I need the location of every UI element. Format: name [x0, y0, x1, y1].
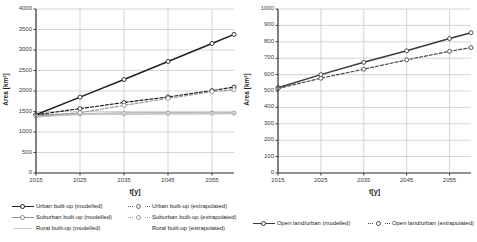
legend-item-label: Rural built-up (modelled): [36, 224, 101, 233]
y-tick-label: 500: [6, 149, 32, 155]
legend-item-label: Suburban built-up (modelled): [36, 213, 112, 222]
series-line: [36, 34, 234, 114]
series-marker: [469, 31, 473, 35]
y-tick-label: 2500: [6, 67, 32, 73]
figure-two-line-charts: Area [km²] t[y] Urban built-up (modelled…: [0, 0, 477, 242]
legend-item: Urban built-up (extrapolated): [128, 201, 237, 212]
series-marker: [405, 49, 409, 53]
legend-item-label: Urban built-up (modelled): [36, 202, 102, 211]
y-tick-label: 500: [248, 87, 274, 93]
y-tick-label: 800: [248, 38, 274, 44]
series-marker: [448, 37, 452, 41]
plot-area-right: [240, 0, 477, 195]
series-marker: [232, 32, 236, 36]
x-tick-label: 2055: [198, 177, 226, 183]
legend-key-solid-line-icon: [12, 213, 34, 222]
x-tick-label: 2015: [264, 177, 292, 183]
series-marker: [166, 96, 170, 100]
legend-key-dashed-line-icon: [128, 213, 150, 222]
x-tick-label: 2045: [154, 177, 182, 183]
x-axis-title-left: t[y]: [36, 187, 234, 196]
legend-item: Open land/urban (extrapolated): [368, 218, 474, 229]
legend-key-solid-line-icon: [253, 219, 275, 228]
legend-item: Rural built-up (extrapolated): [128, 223, 237, 234]
legend-item: Rural built-up (modelled): [12, 223, 112, 234]
y-tick-label: 900: [248, 21, 274, 27]
legend-key-solid-line-icon: [12, 224, 34, 233]
legend-key-blank-icon: [128, 224, 150, 233]
legend-key-solid-line-icon: [12, 202, 34, 211]
y-tick-label: 1000: [248, 5, 274, 11]
legend-item: Open land/urban (modelled): [253, 218, 350, 229]
series-marker: [405, 58, 409, 62]
series-marker: [78, 107, 82, 111]
y-tick-label: 1500: [6, 108, 32, 114]
legend-item-label: Suburban built-up (extrapolated): [152, 213, 237, 222]
series-marker: [210, 41, 214, 45]
legend-left-extrapolated: Urban built-up (extrapolated)Suburban bu…: [128, 201, 237, 234]
legend-item-label: Open land/urban (modelled): [277, 219, 350, 228]
series-marker: [78, 111, 82, 115]
chart-panel-right: Area [km²] t[y] Open land/urban (modelle…: [240, 0, 477, 242]
series-marker: [319, 76, 323, 80]
series-marker: [122, 78, 126, 82]
x-tick-label: 2035: [110, 177, 138, 183]
series-marker: [122, 103, 126, 107]
series-marker: [362, 60, 366, 64]
x-tick-label: 2025: [307, 177, 335, 183]
series-marker: [469, 46, 473, 50]
legend-left-modelled: Urban built-up (modelled)Suburban built-…: [12, 201, 112, 234]
legend-item-label: Urban built-up (extrapolated): [152, 202, 227, 211]
y-tick-label: 100: [248, 153, 274, 159]
series-line: [278, 48, 471, 89]
legend-right-modelled: Open land/urban (modelled): [253, 218, 350, 229]
y-tick-label: 2000: [6, 87, 32, 93]
x-tick-label: 2055: [436, 177, 464, 183]
y-tick-label: 300: [248, 120, 274, 126]
plot-area-left: [0, 0, 240, 195]
y-tick-label: 200: [248, 136, 274, 142]
x-tick-label: 2035: [350, 177, 378, 183]
legend-key-dashed-line-icon: [368, 219, 390, 228]
y-tick-label: 700: [248, 54, 274, 60]
x-axis-title-right: t[y]: [278, 187, 471, 196]
y-tick-label: 1000: [6, 128, 32, 134]
y-tick-label: 3000: [6, 46, 32, 52]
series-marker: [210, 90, 214, 94]
series-marker: [166, 59, 170, 63]
y-tick-label: 4000: [6, 5, 32, 11]
y-tick-label: 0: [6, 169, 32, 175]
y-tick-label: 600: [248, 71, 274, 77]
legend-key-dashed-line-icon: [128, 202, 150, 211]
legend-item: Urban built-up (modelled): [12, 201, 112, 212]
x-tick-label: 2025: [66, 177, 94, 183]
series-marker: [448, 49, 452, 53]
y-tick-label: 3500: [6, 26, 32, 32]
y-tick-label: 400: [248, 103, 274, 109]
y-tick-label: 0: [248, 169, 274, 175]
legend-item: Suburban built-up (modelled): [12, 212, 112, 223]
legend-item-label: Rural built-up (extrapolated): [152, 224, 225, 233]
series-line: [278, 33, 471, 88]
legend-right-extrapolated: Open land/urban (extrapolated): [368, 218, 474, 229]
legend-item-label: Open land/urban (extrapolated): [392, 219, 474, 228]
series-marker: [362, 67, 366, 71]
series-marker: [232, 88, 236, 92]
legend-item: Suburban built-up (extrapolated): [128, 212, 237, 223]
x-tick-label: 2045: [393, 177, 421, 183]
series-marker: [78, 95, 82, 99]
x-tick-label: 2015: [22, 177, 50, 183]
